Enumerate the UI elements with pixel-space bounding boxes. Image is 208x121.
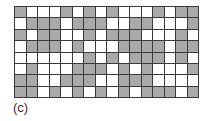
empty-cell	[165, 64, 176, 74]
filled-cell	[153, 7, 164, 17]
filled-cell	[142, 87, 153, 97]
empty-cell	[188, 30, 199, 40]
empty-cell	[61, 30, 72, 40]
empty-cell	[38, 75, 49, 85]
filled-cell	[61, 75, 72, 85]
empty-cell	[107, 64, 118, 74]
filled-cell	[142, 18, 153, 28]
empty-cell	[119, 18, 130, 28]
empty-cell	[15, 41, 26, 51]
filled-cell	[50, 41, 61, 51]
empty-cell	[27, 30, 38, 40]
filled-cell	[188, 18, 199, 28]
empty-cell	[130, 87, 141, 97]
filled-cell	[130, 41, 141, 51]
empty-cell	[153, 30, 164, 40]
filled-cell	[107, 53, 118, 63]
empty-cell	[165, 18, 176, 28]
empty-cell	[73, 53, 84, 63]
empty-cell	[96, 30, 107, 40]
empty-cell	[165, 30, 176, 40]
filled-cell	[27, 87, 38, 97]
filled-cell	[38, 30, 49, 40]
filled-cell	[119, 30, 130, 40]
filled-cell	[176, 30, 187, 40]
filled-cell	[38, 18, 49, 28]
empty-cell	[50, 64, 61, 74]
filled-cell	[50, 18, 61, 28]
empty-cell	[153, 64, 164, 74]
empty-cell	[130, 64, 141, 74]
filled-cell	[96, 18, 107, 28]
filled-cell	[176, 7, 187, 17]
empty-cell	[107, 41, 118, 51]
empty-cell	[119, 53, 130, 63]
filled-cell	[188, 64, 199, 74]
empty-cell	[153, 75, 164, 85]
filled-cell	[119, 87, 130, 97]
filled-cell	[84, 53, 95, 63]
filled-cell	[96, 64, 107, 74]
filled-cell	[107, 7, 118, 17]
empty-cell	[107, 87, 118, 97]
empty-cell	[142, 30, 153, 40]
filled-cell	[84, 18, 95, 28]
empty-cell	[176, 87, 187, 97]
filled-cell	[130, 75, 141, 85]
filled-cell	[153, 41, 164, 51]
filled-cell	[27, 41, 38, 51]
filled-cell	[96, 87, 107, 97]
filled-cell	[38, 41, 49, 51]
empty-cell	[165, 53, 176, 63]
filled-cell	[119, 75, 130, 85]
filled-cell	[50, 30, 61, 40]
filled-cell	[73, 64, 84, 74]
empty-cell	[96, 41, 107, 51]
empty-cell	[84, 87, 95, 97]
empty-cell	[15, 53, 26, 63]
empty-cell	[61, 18, 72, 28]
filled-cell	[188, 7, 199, 17]
empty-cell	[153, 18, 164, 28]
empty-cell	[61, 41, 72, 51]
filled-cell	[27, 18, 38, 28]
empty-cell	[50, 53, 61, 63]
empty-cell	[61, 64, 72, 74]
empty-cell	[84, 41, 95, 51]
filled-cell	[61, 7, 72, 17]
filled-cell	[27, 64, 38, 74]
empty-cell	[165, 7, 176, 17]
empty-cell	[50, 7, 61, 17]
empty-cell	[130, 7, 141, 17]
filled-cell	[73, 41, 84, 51]
filled-cell	[188, 41, 199, 51]
empty-cell	[15, 18, 26, 28]
empty-cell	[38, 53, 49, 63]
filled-cell	[130, 30, 141, 40]
empty-cell	[61, 53, 72, 63]
figure-label: (c)	[13, 101, 28, 115]
filled-cell	[15, 75, 26, 85]
filled-cell	[15, 7, 26, 17]
filled-cell	[165, 87, 176, 97]
filled-cell	[176, 41, 187, 51]
filled-cell	[142, 53, 153, 63]
binary-grid	[14, 6, 199, 98]
empty-cell	[188, 75, 199, 85]
filled-cell	[142, 75, 153, 85]
empty-cell	[188, 53, 199, 63]
filled-cell	[50, 87, 61, 97]
filled-cell	[142, 64, 153, 74]
filled-cell	[142, 41, 153, 51]
filled-cell	[130, 18, 141, 28]
empty-cell	[107, 18, 118, 28]
empty-cell	[142, 7, 153, 17]
filled-cell	[84, 7, 95, 17]
filled-cell	[73, 75, 84, 85]
filled-cell	[188, 87, 199, 97]
empty-cell	[15, 64, 26, 74]
filled-cell	[84, 64, 95, 74]
empty-cell	[165, 75, 176, 85]
empty-cell	[107, 75, 118, 85]
filled-cell	[15, 87, 26, 97]
